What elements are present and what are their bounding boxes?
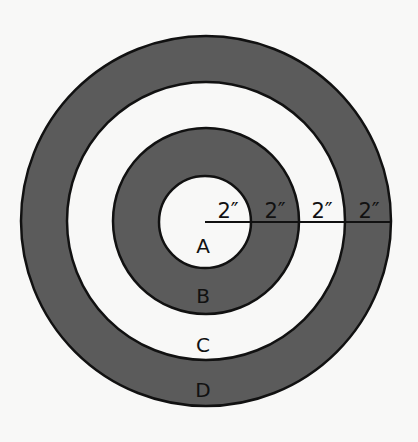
region-label-d: D	[195, 378, 210, 402]
region-label-a: A	[196, 234, 210, 258]
region-label-c: C	[196, 333, 210, 357]
segment-label-4: 2″	[358, 199, 379, 223]
target-diagram: 2″ 2″ 2″ 2″ A B C D	[0, 0, 418, 442]
segment-label-3: 2″	[311, 199, 332, 223]
segment-label-2: 2″	[264, 199, 285, 223]
segment-label-1: 2″	[217, 199, 238, 223]
region-label-b: B	[196, 284, 210, 308]
